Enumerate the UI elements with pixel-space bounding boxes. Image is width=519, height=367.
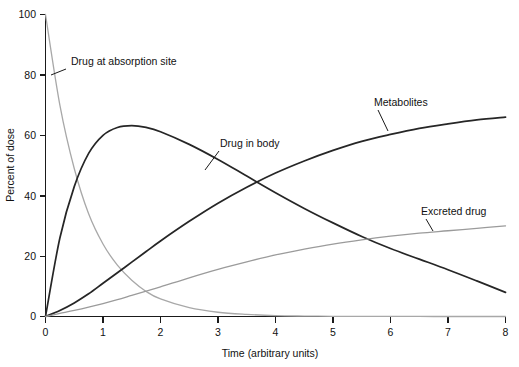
- x-tick-label-8: 8: [503, 326, 509, 338]
- y-tick-label-20: 20: [24, 250, 36, 262]
- series-label-drug-in-body: Drug in body: [220, 137, 280, 149]
- curve-drug-in-body: [46, 126, 506, 317]
- x-tick-label-7: 7: [445, 326, 451, 338]
- x-tick-label-2: 2: [158, 326, 164, 338]
- x-tick-label-0: 0: [43, 326, 49, 338]
- series-label-drug-at-absorption-site: Drug at absorption site: [71, 55, 177, 67]
- pharmacokinetics-chart: 100 80 60 40 20 0 Percent of dose 0 1 2 …: [0, 0, 519, 367]
- x-tick-label-5: 5: [330, 326, 336, 338]
- chart-canvas: 100 80 60 40 20 0 Percent of dose 0 1 2 …: [0, 0, 519, 367]
- x-tick-label-6: 6: [388, 326, 394, 338]
- leader-line-drug-at-absorption-site: [51, 69, 66, 75]
- leader-line-metabolites: [378, 110, 388, 131]
- y-tick-label-80: 80: [24, 69, 36, 81]
- y-tick-label-40: 40: [24, 190, 36, 202]
- x-axis-title: Time (arbitrary units): [222, 347, 318, 359]
- x-tick-label-3: 3: [215, 326, 221, 338]
- y-tick-label-60: 60: [24, 129, 36, 141]
- y-tick-label-0: 0: [30, 310, 36, 322]
- leader-line-excreted-drug: [426, 219, 433, 231]
- x-tick-marks: [46, 317, 506, 324]
- y-axis-title: Percent of dose: [4, 128, 16, 202]
- series-label-excreted-drug: Excreted drug: [421, 205, 487, 217]
- series-label-metabolites: Metabolites: [374, 96, 428, 108]
- y-tick-label-100: 100: [18, 8, 36, 20]
- x-tick-label-1: 1: [100, 326, 106, 338]
- curve-excreted-drug: [46, 226, 506, 317]
- annotation-group: Drug at absorption siteDrug in bodyMetab…: [51, 55, 487, 231]
- y-tick-marks: [40, 15, 45, 317]
- x-tick-label-4: 4: [273, 326, 279, 338]
